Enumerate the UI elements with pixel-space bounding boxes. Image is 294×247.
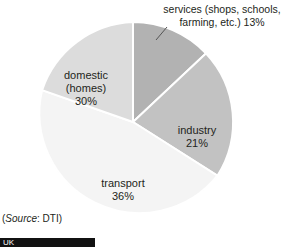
pie-label-transport: transport 36% <box>77 177 169 203</box>
pie-label-industry-line1: industry <box>178 124 217 136</box>
source-value: : DTI) <box>37 213 62 224</box>
pie-label-services-line2: farming, etc.) 13% <box>179 16 264 28</box>
caption-bar-text: UK <box>3 238 14 247</box>
pie-chart-svg <box>0 0 294 247</box>
source-label: Source <box>5 213 37 224</box>
pie-label-services: services (shops, schools, farming, etc.)… <box>150 3 294 29</box>
pie-chart-figure: services (shops, schools, farming, etc.)… <box>0 0 294 247</box>
chart-source-note: (Source: DTI) <box>2 213 62 224</box>
pie-label-domestic-value: 30% <box>75 95 97 107</box>
pie-label-domestic-line1: domestic <box>64 69 108 81</box>
pie-label-industry-value: 21% <box>186 137 208 149</box>
pie-label-industry: industry 21% <box>160 124 234 150</box>
pie-label-domestic: domestic (homes) 30% <box>42 69 130 108</box>
caption-bar: UK <box>0 238 95 247</box>
pie-label-transport-value: 36% <box>112 190 134 202</box>
pie-label-services-line1: services (shops, schools, <box>163 3 280 15</box>
pie-label-domestic-line2: (homes) <box>66 82 106 94</box>
pie-label-transport-line1: transport <box>101 177 144 189</box>
